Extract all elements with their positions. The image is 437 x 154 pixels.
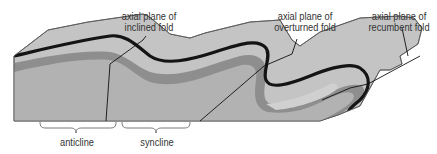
label-recumbent-line2: recumbent fold	[365, 22, 434, 33]
syncline-bracket	[122, 122, 190, 133]
anticline-bracket	[40, 122, 116, 133]
label-inclined-fold: axial plane of inclined fold	[116, 11, 181, 33]
label-overturned-fold: axial plane of overturned fold	[269, 11, 341, 33]
label-anticline: anticline	[55, 137, 99, 148]
label-recumbent-fold: axial plane of recumbent fold	[365, 11, 434, 33]
label-syncline: syncline	[135, 137, 179, 148]
label-inclined-line2: inclined fold	[116, 22, 181, 33]
label-overturned-line2: overturned fold	[269, 22, 341, 33]
